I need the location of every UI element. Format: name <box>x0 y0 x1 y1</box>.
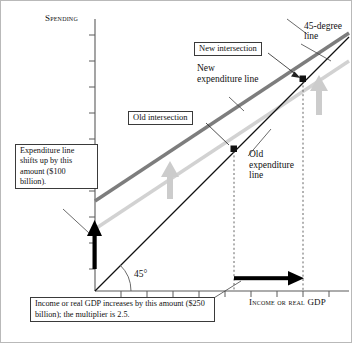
leader-new-intersection <box>268 53 298 76</box>
leader-old-intersection <box>206 123 229 145</box>
multiplier-callout: Income or real GDP increases by this amo… <box>30 297 215 322</box>
expenditure-shift-callout: Expenditure line shifts up by this amoun… <box>15 144 98 189</box>
old-intersection-label: Old intersection <box>128 111 193 125</box>
leader-shift-callout <box>63 209 89 233</box>
angle-label: 45° <box>134 269 147 280</box>
new-intersection-marker <box>300 76 307 83</box>
old-expenditure-line <box>95 61 349 229</box>
angle-arc <box>120 265 131 291</box>
x-axis-title: Income or real GDP <box>249 297 326 307</box>
y-axis-title: Spending <box>45 13 78 23</box>
shift-arrow-right <box>310 75 328 115</box>
shift-arrow-left <box>161 161 179 199</box>
new-intersection-label: New intersection <box>194 42 262 56</box>
old-intersection-marker <box>231 146 238 153</box>
leader-new-intersection-head <box>291 72 301 79</box>
new-expenditure-line-label: New expenditure line <box>197 63 259 84</box>
forty-five-degree-line-label: 45-degree line <box>304 21 350 42</box>
gdp-increase-arrow <box>234 271 304 286</box>
old-expenditure-line-label: Old expenditure line <box>249 149 305 181</box>
figure-container: Spending Income or real GDP 45° New inte… <box>0 0 352 343</box>
